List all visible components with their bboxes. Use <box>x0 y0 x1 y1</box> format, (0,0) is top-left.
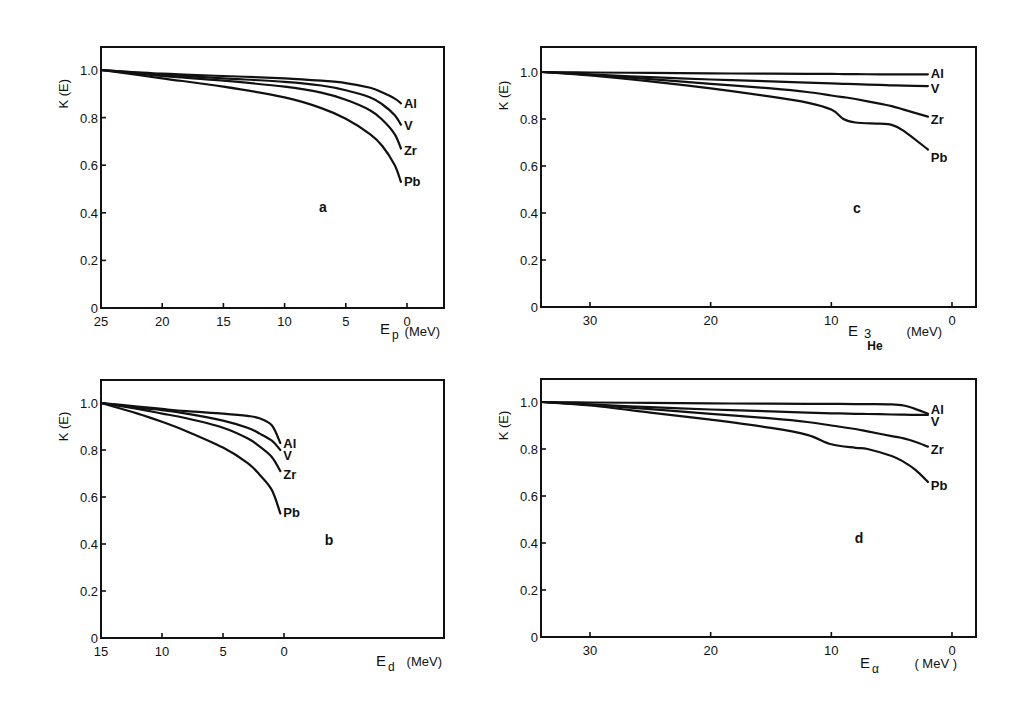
y-tick-label: 1.0 <box>80 63 98 78</box>
x-tick-label: 15 <box>94 644 108 659</box>
y-tick-label: 0.2 <box>80 253 98 268</box>
y-tick-label: 0.6 <box>80 158 98 173</box>
y-tick-label: 0.8 <box>520 112 538 127</box>
y-tick-label: 0.2 <box>520 253 538 268</box>
series-label-v: V <box>283 448 292 463</box>
x-tick-label: 30 <box>583 313 597 328</box>
y-tick-label: 0 <box>531 630 538 645</box>
x-tick-label: 15 <box>216 314 230 329</box>
y-tick-label: 0.8 <box>80 443 98 458</box>
y-tick-label: 0.8 <box>520 442 538 457</box>
y-tick-label: 0.4 <box>80 537 98 552</box>
x-axis-unit: ( MeV ) <box>914 656 957 671</box>
y-tick-label: 0.4 <box>520 206 538 221</box>
y-tick-label: 1.0 <box>520 395 538 410</box>
panel-letter: b <box>325 532 334 548</box>
curve-al <box>101 403 280 443</box>
y-tick-label: 0.6 <box>520 159 538 174</box>
y-axis-title: K (E) <box>496 411 511 441</box>
y-axis-title: K (E) <box>56 412 71 442</box>
figure-k-of-e-four-panels: 00.20.40.60.81.02520151050K (E)Ep(MeV)Al… <box>0 0 1024 716</box>
curve-zr <box>542 402 928 447</box>
panel-letter: c <box>853 200 861 216</box>
y-tick-label: 0.6 <box>520 489 538 504</box>
y-tick-label: 1.0 <box>520 65 538 80</box>
x-tick-label: 10 <box>824 313 838 328</box>
series-label-pb: Pb <box>931 150 948 165</box>
x-tick-label: 0 <box>948 313 955 328</box>
series-label-pb: Pb <box>283 505 300 520</box>
panel-c-helium3: 00.20.40.60.81.03020100K (E)E3He(MeV)AlV… <box>496 47 976 353</box>
x-tick-label: 10 <box>824 643 838 658</box>
panel-letter: a <box>319 199 327 215</box>
y-tick-label: 0 <box>531 300 538 315</box>
x-axis-unit: (MeV) <box>907 324 942 339</box>
series-label-pb: Pb <box>931 478 948 493</box>
curve-zr <box>542 72 928 117</box>
x-tick-label: 20 <box>703 313 717 328</box>
series-label-al: Al <box>931 66 944 81</box>
x-axis-unit: (MeV) <box>405 324 440 339</box>
series-label-pb: Pb <box>404 174 421 189</box>
x-axis-title: Ed <box>376 652 395 674</box>
y-tick-label: 1.0 <box>80 396 98 411</box>
panel-b-deuteron: 00.20.40.60.81.0151050K (E)Ed(MeV)AlVZrP… <box>56 380 444 674</box>
x-tick-label: 20 <box>703 643 717 658</box>
curve-pb <box>101 70 401 182</box>
panel-letter: d <box>855 530 864 546</box>
y-tick-label: 0.6 <box>80 490 98 505</box>
panel-d-alpha: 00.20.40.60.81.03020100K (E)Eα( MeV )AlV… <box>496 379 976 676</box>
y-tick-label: 0.8 <box>80 111 98 126</box>
x-tick-label: 10 <box>155 644 169 659</box>
x-tick-label: 0 <box>280 644 287 659</box>
x-tick-label: 5 <box>219 644 226 659</box>
series-label-zr: Zr <box>283 467 296 482</box>
x-tick-label: 30 <box>583 643 597 658</box>
series-label-v: V <box>931 414 940 429</box>
x-axis-title: E3He <box>848 322 883 353</box>
y-axis-title: K (E) <box>56 79 71 109</box>
x-axis-title: Eα <box>860 654 879 676</box>
curve-zr <box>101 70 401 149</box>
y-axis-title: K (E) <box>496 81 511 111</box>
y-tick-label: 0.4 <box>520 536 538 551</box>
x-tick-label: 5 <box>342 314 349 329</box>
curve-v <box>101 70 401 125</box>
x-tick-label: 10 <box>277 314 291 329</box>
series-label-zr: Zr <box>404 143 417 158</box>
x-tick-label: 20 <box>155 314 169 329</box>
y-tick-label: 0.2 <box>80 584 98 599</box>
series-label-v: V <box>404 118 413 133</box>
y-tick-label: 0.2 <box>520 583 538 598</box>
x-axis-title: Ep <box>380 320 399 342</box>
x-axis-unit: (MeV) <box>407 654 442 669</box>
series-label-zr: Zr <box>931 442 944 457</box>
x-tick-label: 25 <box>94 314 108 329</box>
series-label-zr: Zr <box>931 112 944 127</box>
panel-a-proton: 00.20.40.60.81.02520151050K (E)Ep(MeV)Al… <box>56 47 444 342</box>
y-tick-label: 0.4 <box>80 206 98 221</box>
series-label-v: V <box>931 81 940 96</box>
series-label-al: Al <box>404 96 417 111</box>
